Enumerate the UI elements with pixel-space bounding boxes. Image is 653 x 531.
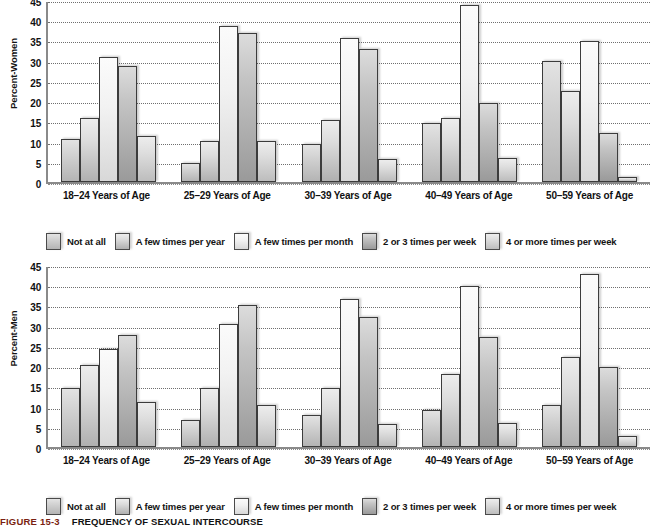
plot-area-women: 051015202530354045: [46, 2, 650, 184]
bar: [422, 410, 441, 447]
x-axis-labels-women: 18–24 Years of Age25–29 Years of Age30–3…: [46, 190, 650, 201]
bar: [302, 415, 321, 447]
bar-groups-women: [48, 2, 650, 182]
legend-item: A few times per year: [115, 498, 225, 515]
y-tick-label: 15: [30, 118, 41, 129]
y-tick-label: 30: [30, 57, 41, 68]
y-tick-label: 20: [30, 363, 41, 374]
y-tick-label: 0: [36, 444, 41, 455]
bar: [321, 388, 340, 447]
chart-panel-women: Percent-Women 051015202530354045 18–24 Y…: [0, 0, 653, 212]
bar-group: [409, 2, 529, 182]
bar: [181, 420, 200, 448]
bar-group: [289, 267, 409, 447]
bar: [99, 349, 118, 447]
bar: [441, 374, 460, 447]
bar: [542, 61, 561, 182]
plot-frame-men: [46, 267, 650, 449]
legend-swatch-not-at-all: [46, 233, 61, 250]
chart-panel-men: Percent-Men 051015202530354045 18–24 Yea…: [0, 265, 653, 477]
legend-swatch-few-per-month: [234, 233, 249, 250]
y-tick-label: 40: [30, 17, 41, 28]
bar: [257, 405, 276, 447]
bar: [61, 139, 80, 182]
y-tick-label: 25: [30, 77, 41, 88]
y-axis-ticks-men: 051015202530354045: [17, 267, 41, 449]
x-axis-label: 18–24 Years of Age: [46, 455, 167, 466]
bar: [80, 365, 99, 447]
gridline: [48, 184, 650, 185]
x-axis-labels-men: 18–24 Years of Age25–29 Years of Age30–3…: [46, 455, 650, 466]
bar: [378, 159, 397, 182]
bar: [238, 33, 257, 182]
plot-frame-women: [46, 2, 650, 184]
y-tick-label: 5: [36, 423, 41, 434]
legend-label: 4 or more times per week: [506, 501, 616, 512]
bar: [340, 299, 359, 447]
legend-item: 4 or more times per week: [485, 498, 616, 515]
legend-item: 2 or 3 times per week: [362, 233, 476, 250]
bar: [542, 405, 561, 447]
legend-swatch-few-per-year: [115, 233, 130, 250]
y-tick-label: 10: [30, 403, 41, 414]
x-axis-label: 50–59 Years of Age: [529, 190, 650, 201]
y-tick-label: 45: [30, 0, 41, 8]
legend-item: 2 or 3 times per week: [362, 498, 476, 515]
legend-item: A few times per month: [234, 498, 353, 515]
legend-label: Not at all: [67, 501, 106, 512]
bar: [137, 402, 156, 447]
bar: [561, 357, 580, 447]
bar: [118, 66, 137, 182]
bar: [118, 335, 137, 447]
x-axis-label: 25–29 Years of Age: [167, 190, 288, 201]
figure-caption: FIGURE 15-3 FREQUENCY OF SEXUAL INTERCOU…: [0, 516, 653, 527]
bar: [599, 367, 618, 447]
bar: [359, 317, 378, 447]
y-tick-label: 45: [30, 262, 41, 273]
figure-frequency-of-sexual-intercourse: Percent-Women 051015202530354045 18–24 Y…: [0, 0, 653, 531]
bar-group: [48, 2, 168, 182]
legend-swatch-4-plus-per-week: [485, 233, 500, 250]
bar: [479, 103, 498, 182]
y-tick-label: 25: [30, 342, 41, 353]
bar-group: [409, 267, 529, 447]
legend-swatch-few-per-year: [115, 498, 130, 515]
legend-label: A few times per year: [136, 501, 225, 512]
legend-label: 2 or 3 times per week: [383, 501, 476, 512]
bar: [359, 49, 378, 182]
bar: [200, 141, 219, 182]
bar: [498, 423, 517, 447]
bar: [561, 91, 580, 182]
bar: [219, 26, 238, 182]
legend-swatch-not-at-all: [46, 498, 61, 515]
y-tick-label: 35: [30, 37, 41, 48]
bar: [257, 141, 276, 182]
bar: [302, 144, 321, 182]
bar-group: [48, 267, 168, 447]
legend-item: 4 or more times per week: [485, 233, 616, 250]
x-axis-label: 25–29 Years of Age: [167, 455, 288, 466]
y-tick-label: 0: [36, 179, 41, 190]
bar: [580, 274, 599, 447]
x-axis-label: 40–49 Years of Age: [408, 455, 529, 466]
bar-group: [168, 2, 288, 182]
bar: [200, 388, 219, 447]
legend-label: A few times per month: [255, 501, 353, 512]
bar: [460, 286, 479, 447]
legend-item: Not at all: [46, 498, 106, 515]
bar: [378, 424, 397, 447]
y-tick-label: 10: [30, 138, 41, 149]
bar-group: [530, 267, 650, 447]
bar: [80, 118, 99, 182]
bar: [238, 305, 257, 447]
y-tick-label: 40: [30, 282, 41, 293]
plot-area-men: 051015202530354045: [46, 267, 650, 449]
bar: [599, 133, 618, 182]
x-axis-label: 30–39 Years of Age: [288, 455, 409, 466]
legend-item: Not at all: [46, 233, 106, 250]
bar: [219, 324, 238, 447]
bar: [580, 41, 599, 182]
bar: [618, 436, 637, 447]
legend-swatch-4-plus-per-week: [485, 498, 500, 515]
x-axis-label: 30–39 Years of Age: [288, 190, 409, 201]
